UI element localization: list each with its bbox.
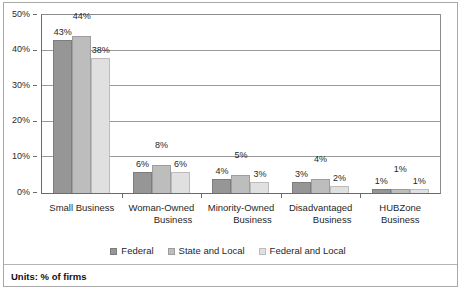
y-axis-tick-label: 30% xyxy=(12,81,30,90)
y-axis-tick xyxy=(33,50,37,51)
bar-value-label: 5% xyxy=(229,151,253,160)
legend-swatch-icon xyxy=(168,248,175,255)
x-label-line-2: Business xyxy=(122,214,202,226)
bar-value-label: 1% xyxy=(388,165,412,174)
x-axis-category-label: Minority-OwnedBusiness xyxy=(201,202,281,225)
legend-item[interactable]: Federal and Local xyxy=(259,246,346,256)
x-label-line-1: HUBZone Business xyxy=(379,202,421,225)
bar[interactable] xyxy=(372,189,391,193)
legend-label: Federal and Local xyxy=(270,246,346,256)
x-label-line-1: Small Business xyxy=(49,202,114,213)
bar-group: 6%8%6% xyxy=(122,15,202,193)
x-axis-category-label: Small Business xyxy=(42,202,122,214)
legend-label: State and Local xyxy=(179,246,245,256)
bar-value-label: 4% xyxy=(210,167,234,176)
bar-value-label: 38% xyxy=(89,46,113,55)
bar-value-label: 4% xyxy=(309,155,333,164)
bar-value-label: 1% xyxy=(369,177,393,186)
chart-legend: FederalState and LocalFederal and Local xyxy=(8,243,448,259)
bar-value-label: 2% xyxy=(328,174,352,183)
x-label-line-1: Woman-Owned xyxy=(128,202,194,213)
bar[interactable] xyxy=(171,172,190,193)
units-note: Units: % of firms xyxy=(11,271,86,282)
bar[interactable] xyxy=(250,182,269,193)
legend-item[interactable]: State and Local xyxy=(168,246,245,256)
y-axis-tick-label: 10% xyxy=(12,152,30,161)
bar-group: 4%5%3% xyxy=(201,15,281,193)
legend-item[interactable]: Federal xyxy=(110,246,153,256)
chart-figure: 0%10%20%30%40%50% 43%44%38%6%8%6%4%5%3%3… xyxy=(0,0,461,290)
x-label-line-2: Business xyxy=(201,214,281,226)
footer-divider xyxy=(4,264,457,265)
bar-group: 43%44%38% xyxy=(42,15,122,193)
bar-value-label: 1% xyxy=(407,177,431,186)
x-axis-category-label: HUBZone Business xyxy=(360,202,440,225)
bar[interactable] xyxy=(391,189,410,193)
x-label-line-1: Minority-Owned xyxy=(208,202,275,213)
bar[interactable] xyxy=(72,36,91,193)
legend-label: Federal xyxy=(121,246,153,256)
bar[interactable] xyxy=(91,58,110,193)
bars xyxy=(42,15,122,193)
bar[interactable] xyxy=(330,186,349,193)
x-label-line-1: Disadvantaged xyxy=(289,202,352,213)
y-axis-tick-label: 20% xyxy=(12,116,30,125)
bar-value-label: 6% xyxy=(168,160,192,169)
bar-value-label: 3% xyxy=(290,170,314,179)
bar-value-label: 3% xyxy=(248,170,272,179)
y-axis: 0%10%20%30%40%50% xyxy=(8,14,37,194)
x-axis-tick xyxy=(201,193,202,198)
bar[interactable] xyxy=(152,165,171,193)
bar-groups: 43%44%38%6%8%6%4%5%3%3%4%2%1%1%1% xyxy=(42,15,440,193)
y-axis-tick xyxy=(33,85,37,86)
bar-value-label: 44% xyxy=(70,12,94,21)
y-axis-tick xyxy=(33,14,37,15)
bar-value-label: 8% xyxy=(149,141,173,150)
bar-group: 1%1%1% xyxy=(360,15,440,193)
x-axis-tick xyxy=(281,193,282,198)
y-axis-tick xyxy=(33,192,37,193)
legend-swatch-icon xyxy=(259,248,266,255)
bar[interactable] xyxy=(53,40,72,193)
bars xyxy=(281,15,361,193)
bar-value-label: 6% xyxy=(130,160,154,169)
x-axis-tick xyxy=(360,193,361,198)
x-axis-labels: Small BusinessWoman-OwnedBusinessMinorit… xyxy=(42,202,440,236)
bar[interactable] xyxy=(133,172,152,193)
x-axis-category-label: Woman-OwnedBusiness xyxy=(122,202,202,225)
y-axis-tick-label: 50% xyxy=(12,10,30,19)
bar-value-label: 43% xyxy=(51,28,75,37)
x-label-line-2: Business xyxy=(281,214,361,226)
y-axis-tick-label: 40% xyxy=(12,45,30,54)
chart-panel: 0%10%20%30%40%50% 43%44%38%6%8%6%4%5%3%3… xyxy=(8,6,448,236)
bar[interactable] xyxy=(410,189,429,193)
y-axis-tick xyxy=(33,156,37,157)
x-axis-tick xyxy=(122,193,123,198)
x-axis-category-label: DisadvantagedBusiness xyxy=(281,202,361,225)
legend-swatch-icon xyxy=(110,248,117,255)
bar[interactable] xyxy=(212,179,231,193)
y-axis-tick-label: 0% xyxy=(17,188,30,197)
bar-group: 3%4%2% xyxy=(281,15,361,193)
y-axis-tick xyxy=(33,121,37,122)
bar[interactable] xyxy=(292,182,311,193)
